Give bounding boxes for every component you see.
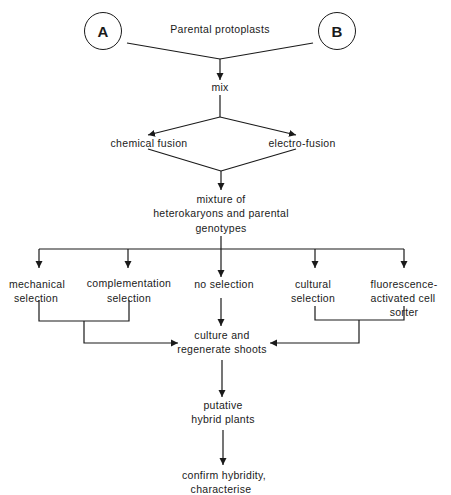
complementation-selection-line-1: complementation: [87, 276, 171, 290]
parent-a-circle: A: [84, 12, 122, 50]
parental-protoplasts-label: Parental protoplasts: [170, 22, 269, 36]
putative-line-1: putative: [203, 398, 242, 412]
facs-line-1: fluorescence-: [371, 277, 438, 291]
line-a-to-junction: [127, 43, 220, 59]
line-chemical-to-junction: [148, 149, 221, 171]
electro-fusion-label: electro-fusion: [268, 136, 335, 150]
mixture-line-3: genotypes: [195, 221, 246, 235]
chemical-fusion-label: chemical fusion: [111, 136, 188, 150]
no-selection-label: no selection: [194, 277, 254, 291]
cultural-selection-line-2: selection: [291, 291, 335, 305]
arrow-to-chemical-fusion: [148, 117, 220, 135]
culture-line-1: culture and: [194, 328, 249, 342]
mixture-line-1: mixture of: [196, 192, 245, 206]
facs-line-2: activated cell: [371, 291, 436, 305]
confirm-line-1: confirm hybridity,: [182, 468, 266, 482]
parent-b-circle: B: [318, 12, 356, 50]
mix-label: mix: [211, 80, 228, 94]
protoplast-fusion-flowchart: A B Parental protoplasts mix chemical fu…: [0, 0, 451, 495]
mechanical-selection-line-1: mechanical: [9, 277, 65, 291]
arrow-left-to-culture: [84, 321, 178, 343]
arrow-right-to-culture: [270, 320, 359, 343]
complementation-selection-line-2: selection: [107, 291, 151, 305]
mixture-line-2: heterokaryons and parental: [153, 206, 289, 220]
arrow-to-electro-fusion: [220, 117, 296, 135]
confirm-line-2: characterise: [191, 482, 252, 495]
cultural-selection-line-1: cultural: [295, 277, 331, 291]
culture-line-2: regenerate shoots: [177, 342, 267, 356]
putative-line-2: hybrid plants: [191, 412, 254, 426]
line-b-to-junction: [220, 43, 313, 59]
mechanical-selection-line-2: selection: [14, 291, 58, 305]
line-electro-to-junction: [221, 149, 296, 171]
facs-line-3: sorter: [390, 305, 419, 319]
